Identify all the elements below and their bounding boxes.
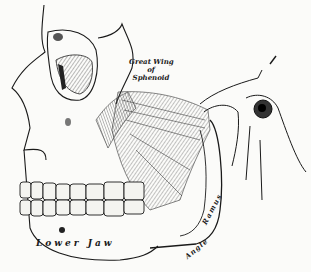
teeth xyxy=(20,182,144,216)
mental-foramen xyxy=(59,227,65,233)
skull-illustration xyxy=(0,0,311,272)
label-line: Sphenoid xyxy=(129,74,173,82)
anatomical-figure: Great Wing of Sphenoid Lower Jaw Ramus A… xyxy=(0,0,311,272)
label-great-wing-of-sphenoid: Great Wing of Sphenoid xyxy=(129,58,173,82)
optic-foramen xyxy=(53,33,63,41)
label-lower-jaw: Lower Jaw xyxy=(36,238,115,248)
